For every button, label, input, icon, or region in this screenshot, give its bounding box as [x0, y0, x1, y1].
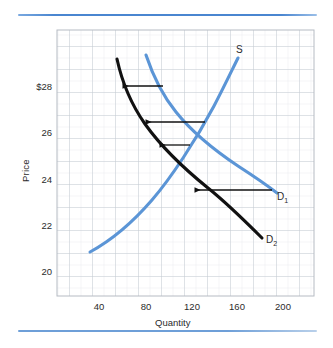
demand-1-label-sub: 1 — [284, 197, 288, 204]
x-tick-label-200: 200 — [267, 301, 299, 312]
demand-shift-figure: $28 26 24 22 20 40 80 120 160 200 Price … — [0, 0, 333, 348]
x-tick-label-120: 120 — [176, 301, 208, 312]
x-tick-label-40: 40 — [83, 301, 115, 312]
demand-1-label: D1 — [277, 191, 288, 204]
supply-curve-label: S — [236, 44, 243, 55]
x-tick-label-80: 80 — [130, 301, 162, 312]
y-tick-label-22: 22 — [14, 220, 52, 231]
plot-grid — [57, 30, 314, 296]
y-tick-label-28: $28 — [14, 81, 52, 92]
y-axis-title: Price — [20, 159, 31, 182]
demand-2-label: D2 — [266, 234, 277, 247]
y-tick-label-26: 26 — [14, 127, 52, 138]
y-tick-label-20: 20 — [14, 266, 52, 277]
demand-2-label-sub: 2 — [273, 240, 277, 247]
x-axis-title: Quantity — [155, 317, 190, 328]
x-tick-label-160: 160 — [221, 301, 253, 312]
